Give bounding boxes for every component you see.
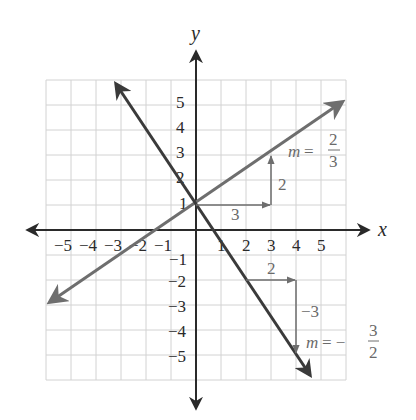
svg-text:3: 3 xyxy=(176,143,185,162)
run-label-2: 2 xyxy=(267,259,276,278)
svg-text:−2: −2 xyxy=(168,272,186,291)
rise-label-1: 2 xyxy=(278,175,287,194)
svg-text:2: 2 xyxy=(369,343,378,362)
svg-text:= −: = − xyxy=(322,333,345,352)
svg-text:m: m xyxy=(288,142,300,161)
x-tick-labels: −5 −4 −3 −2 −1 1 2 3 4 5 xyxy=(54,236,326,255)
rise-label-2: −3 xyxy=(301,302,319,321)
svg-text:4: 4 xyxy=(176,118,185,137)
svg-text:−1: −1 xyxy=(169,250,187,269)
svg-text:2: 2 xyxy=(329,130,338,149)
svg-text:4: 4 xyxy=(292,236,301,255)
svg-text:−4: −4 xyxy=(79,236,98,255)
slope-label-2: m = − 3 2 xyxy=(306,321,379,362)
svg-text:m: m xyxy=(306,333,318,352)
svg-text:3: 3 xyxy=(329,152,338,171)
x-axis-label: x xyxy=(377,218,387,240)
svg-text:=: = xyxy=(304,142,314,161)
coordinate-plane: x y −5 −4 −3 −2 −1 1 2 3 4 5 5 4 3 2 1 −… xyxy=(0,0,416,420)
y-axis-label: y xyxy=(189,22,200,45)
svg-text:3: 3 xyxy=(267,236,276,255)
svg-text:2: 2 xyxy=(242,236,251,255)
svg-text:5: 5 xyxy=(317,236,326,255)
svg-text:−5: −5 xyxy=(168,347,186,366)
run-label-1: 3 xyxy=(231,205,240,224)
svg-text:−5: −5 xyxy=(54,236,72,255)
svg-text:−4: −4 xyxy=(168,322,187,341)
svg-text:5: 5 xyxy=(176,93,185,112)
svg-text:−3: −3 xyxy=(168,297,186,316)
svg-text:3: 3 xyxy=(369,321,378,340)
svg-text:−3: −3 xyxy=(104,236,122,255)
